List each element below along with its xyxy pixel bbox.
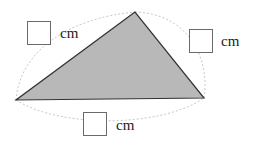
unit-label-right: cm [221, 34, 239, 49]
unit-label-bottom: cm [116, 118, 134, 133]
answer-box-right[interactable] [189, 29, 213, 53]
unit-label-left: cm [60, 26, 78, 41]
arc-bottom [16, 98, 204, 121]
answer-box-left[interactable] [27, 21, 51, 45]
answer-box-bottom[interactable] [83, 112, 107, 136]
